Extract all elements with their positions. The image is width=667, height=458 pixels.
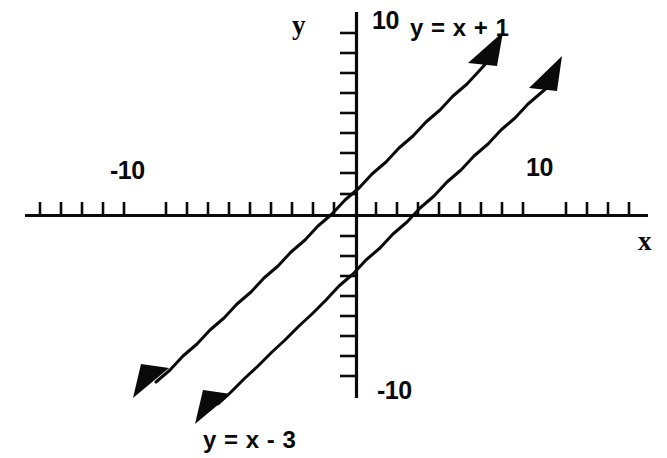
y-axis-tick-label-10: 10: [372, 8, 399, 33]
x-axis-title: x: [638, 228, 652, 255]
y-axis-ticks-negative: [333, 236, 357, 397]
x-axis-group: [25, 193, 648, 216]
x-axis-ticks-negative: [40, 193, 334, 215]
line-y-equals-x-minus-3: [195, 56, 562, 424]
equation-label-line-1: y = x + 1: [410, 16, 509, 40]
y-axis-group: [333, 12, 357, 398]
x-axis-ticks-positive: [376, 193, 629, 215]
coordinate-plane-svg: [0, 0, 667, 458]
x-axis-tick-label-neg10: -10: [110, 158, 145, 183]
y-axis-ticks-positive: [333, 14, 357, 195]
equation-label-line-2: y = x - 3: [203, 428, 296, 452]
line-2-arrow-end: [529, 56, 562, 91]
y-axis-title: y: [292, 12, 306, 39]
line-1-path: [156, 60, 489, 382]
y-axis-tick-label-neg10: -10: [377, 378, 412, 403]
line-2-arrow-start: [195, 390, 231, 424]
graph-figure: 10 -10 -10 10 y x y = x + 1 y = x - 3: [0, 0, 667, 458]
line-1-arrow-start: [133, 364, 169, 398]
line-2-path: [218, 86, 549, 404]
x-axis-tick-label-10: 10: [526, 155, 553, 180]
